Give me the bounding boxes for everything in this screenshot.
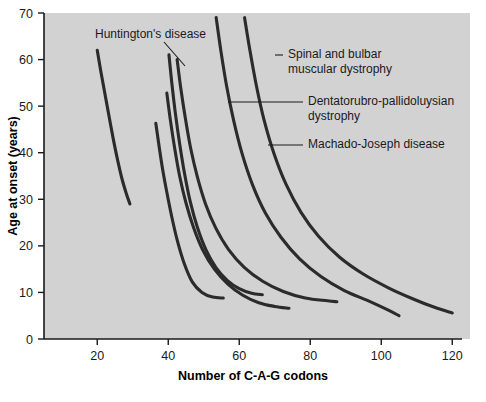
anticipation-chart: 20406080100120 010203040506070 Huntingto… xyxy=(0,0,486,402)
annotation-label-dentatorubro: dystrophy xyxy=(308,109,360,123)
x-tick-label: 100 xyxy=(371,349,392,363)
chart-figure: 20406080100120 010203040506070 Huntingto… xyxy=(0,0,486,402)
x-tick-label: 80 xyxy=(303,349,317,363)
x-tick-label: 120 xyxy=(442,349,463,363)
y-axis-title: Age at onset (years) xyxy=(6,116,20,235)
plot-panel-background xyxy=(44,13,470,339)
y-tick-label: 0 xyxy=(26,333,33,347)
annotation-label-machado-joseph: Machado-Joseph disease xyxy=(308,137,445,151)
annotation-label-dentatorubro: Dentatorubro-pallidoluysian xyxy=(308,94,454,108)
y-tick-label: 60 xyxy=(19,53,33,67)
y-tick-label: 30 xyxy=(19,193,33,207)
annotation-label-huntingtons-disease: Huntington's disease xyxy=(95,27,206,41)
y-tick-label: 10 xyxy=(19,286,33,300)
annotation-label-spinal-bulbar: muscular dystrophy xyxy=(288,62,392,76)
x-tick-label: 20 xyxy=(90,349,104,363)
y-tick-label: 50 xyxy=(19,100,33,114)
annotation-label-spinal-bulbar: Spinal and bulbar xyxy=(288,47,381,61)
y-tick-label: 20 xyxy=(19,239,33,253)
x-tick-label: 40 xyxy=(161,349,175,363)
x-axis-title: Number of C-A-G codons xyxy=(178,369,328,383)
y-tick-label: 70 xyxy=(19,7,33,21)
y-tick-label: 40 xyxy=(19,146,33,160)
x-tick-label: 60 xyxy=(232,349,246,363)
